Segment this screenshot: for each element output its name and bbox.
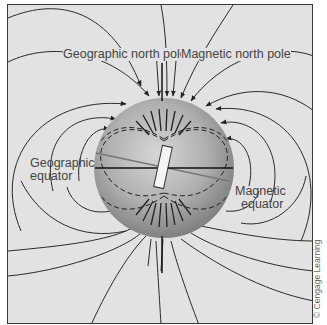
geographic-equator-label: Geographic equator bbox=[30, 157, 95, 183]
geographic-equator-label-line2: equator bbox=[30, 170, 95, 183]
magnetic-north-pole-label: Magnetic north pole bbox=[181, 48, 291, 61]
diagram-frame: Geographic north pole Magnetic north pol… bbox=[7, 4, 313, 324]
magnetic-equator-label: Magnetic equator bbox=[235, 185, 286, 211]
geographic-north-pole-label: Geographic north pole bbox=[63, 48, 187, 61]
copyright-credit: © Cengage Learning bbox=[312, 239, 322, 318]
magnetic-equator-label-line2: equator bbox=[235, 198, 286, 211]
